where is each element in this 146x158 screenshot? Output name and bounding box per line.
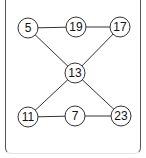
graph-diagram: 5 19 17 13 11 7 23 (0, 0, 146, 158)
node-label: 19 (69, 20, 83, 34)
node-13: 13 (65, 63, 85, 83)
node-label: 5 (25, 21, 32, 35)
node-label: 23 (114, 109, 128, 123)
node-11: 11 (18, 107, 38, 127)
node-17: 17 (110, 17, 130, 37)
node-5: 5 (18, 18, 38, 38)
node-label: 7 (72, 109, 79, 123)
node-label: 11 (22, 110, 35, 124)
node-7: 7 (65, 106, 85, 126)
node-19: 19 (66, 17, 86, 37)
node-label: 17 (113, 20, 127, 34)
node-label: 13 (68, 66, 82, 80)
node-23: 23 (111, 106, 131, 126)
